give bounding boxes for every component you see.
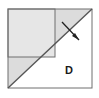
figure-container: D (0, 0, 99, 98)
geometry-figure: D (0, 0, 99, 98)
region-label-d: D (65, 64, 73, 76)
